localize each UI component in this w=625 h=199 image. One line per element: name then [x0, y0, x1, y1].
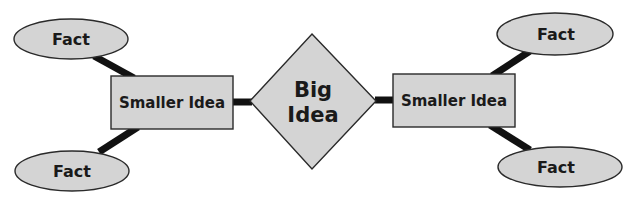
left-smaller-idea: Smaller Idea — [111, 76, 233, 129]
concept-map-diagram: Fact Fact Smaller Idea Big Idea Smaller … — [0, 0, 625, 199]
right-smaller-idea: Smaller Idea — [393, 74, 515, 127]
right-fact-top: Fact — [497, 13, 613, 55]
big-idea-label-line1: Big — [294, 78, 332, 102]
big-idea: Big Idea — [250, 34, 376, 169]
edge-right-idea-to-right-fact-bottom — [490, 125, 530, 150]
left-smaller-idea-label: Smaller Idea — [119, 94, 225, 112]
right-fact-top-label: Fact — [537, 25, 575, 44]
edge-left-fact-top-to-left-idea — [94, 56, 134, 78]
left-fact-bottom: Fact — [15, 151, 129, 191]
edge-right-idea-to-right-fact-top — [492, 51, 530, 76]
left-fact-bottom-label: Fact — [53, 162, 91, 181]
right-fact-bottom: Fact — [498, 147, 622, 187]
right-smaller-idea-label: Smaller Idea — [401, 92, 507, 110]
edge-left-fact-bottom-to-left-idea — [99, 127, 138, 152]
big-idea-label-line2: Idea — [287, 103, 338, 127]
right-fact-bottom-label: Fact — [537, 158, 575, 177]
left-fact-top-label: Fact — [52, 30, 90, 49]
left-fact-top: Fact — [14, 19, 128, 59]
